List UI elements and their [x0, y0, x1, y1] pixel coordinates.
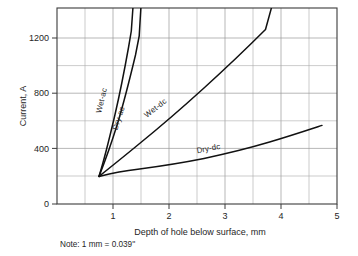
x-tick-label-2: 2 [166, 211, 171, 221]
x-tick-label-1: 1 [110, 211, 115, 221]
y-tick-marks [52, 38, 57, 204]
y-tick-label-0: 0 [44, 199, 49, 209]
x-tick-label-4: 4 [278, 211, 283, 221]
chart-svg: 0 400 800 1200 1 2 3 4 5 Current, A Dept… [0, 0, 358, 256]
y-tick-label-400: 400 [34, 144, 49, 154]
x-tick-label-5: 5 [334, 211, 339, 221]
y-tick-label-800: 800 [34, 88, 49, 98]
x-tick-labels: 1 2 3 4 5 [110, 211, 339, 221]
y-tick-labels: 0 400 800 1200 [29, 33, 49, 209]
x-tick-marks [113, 204, 337, 209]
chart-figure: 0 400 800 1200 1 2 3 4 5 Current, A Dept… [0, 0, 358, 256]
x-axis-title: Depth of hole below surface, mm [134, 227, 266, 237]
y-axis-title: Current, A [18, 86, 28, 127]
y-tick-label-1200: 1200 [29, 33, 49, 43]
footer-note: Note: 1 mm = 0.039'' [60, 240, 136, 249]
x-tick-label-3: 3 [222, 211, 227, 221]
